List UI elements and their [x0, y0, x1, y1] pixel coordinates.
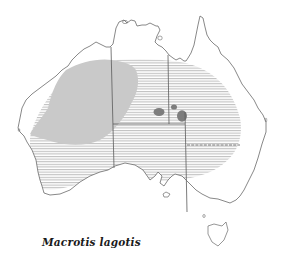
groote-eylandt [158, 36, 162, 40]
core-population-blob [171, 104, 177, 109]
species-name-caption: Macrotis lagotis [42, 236, 141, 248]
distribution-map [0, 0, 285, 267]
kangaroo-island [163, 192, 170, 197]
core-population-blob [154, 108, 165, 116]
king-island [203, 215, 205, 218]
tasmania [208, 222, 228, 246]
australia-map-svg [0, 0, 285, 267]
